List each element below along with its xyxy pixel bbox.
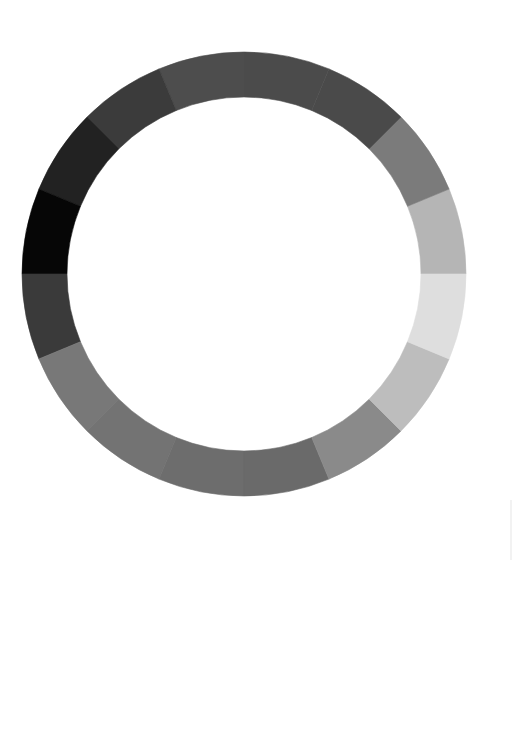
grayscale-ring-chart [0,0,512,741]
